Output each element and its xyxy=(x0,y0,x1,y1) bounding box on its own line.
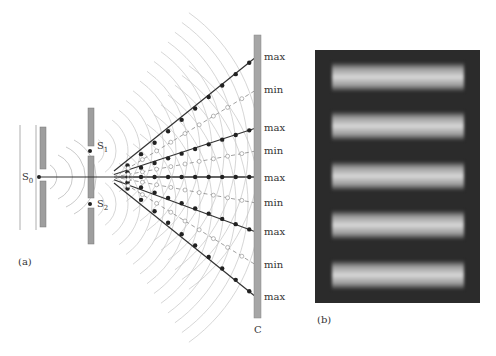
label-b: (b) xyxy=(317,315,331,325)
label-s0: S0 xyxy=(22,172,33,185)
screen-label-min: min xyxy=(264,146,283,156)
label-s1: S1 xyxy=(97,141,108,154)
label-c: C xyxy=(254,325,262,335)
fringe-photo xyxy=(315,50,480,303)
screen-label-min: min xyxy=(264,198,283,208)
screen-label-min: min xyxy=(264,260,283,270)
double-slit-figure: S0 S1 S2 (a) C maxminmaxminmaxminmaxminm… xyxy=(0,0,496,356)
label-a: (a) xyxy=(18,257,32,267)
barrier-s0 xyxy=(40,127,46,169)
screen-label-min: min xyxy=(264,85,283,95)
screen-label-max: max xyxy=(264,292,285,302)
screen-label-max: max xyxy=(264,173,285,183)
screen-label-max: max xyxy=(264,227,285,237)
screen-label-max: max xyxy=(264,123,285,133)
label-s2: S2 xyxy=(97,199,108,212)
barrier-s1-s2 xyxy=(88,108,94,146)
screen-c xyxy=(254,35,261,318)
screen-label-max: max xyxy=(264,52,285,62)
